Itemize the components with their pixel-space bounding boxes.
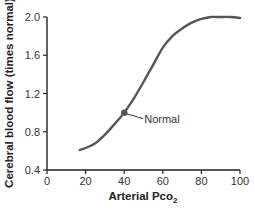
x-tick-label: 60 [157,175,169,187]
normal-point-marker [121,109,127,115]
annotations: Normal [121,109,180,124]
y-tick-label: 1.2 [25,88,40,100]
x-tick-label: 100 [231,175,249,187]
y-tick-label: 1.6 [25,49,40,61]
x-tick-label: 0 [44,175,50,187]
x-tick-label: 80 [195,175,207,187]
annotation-leader-line [126,114,143,119]
x-tick-label: 20 [79,175,91,187]
normal-annotation-label: Normal [144,113,179,125]
blood-flow-curve [80,17,240,150]
x-axis-title: Arterial Pco2 [108,190,178,205]
x-axis: 020406080100 [44,170,249,187]
y-axis-title: Cerebral blood flow (times normal) [3,0,15,188]
x-tick-label: 40 [118,175,130,187]
cerebral-blood-flow-chart: 0.40.81.21.62.0 020406080100 Normal Cere… [0,0,255,210]
y-axis: 0.40.81.21.62.0 [25,11,47,176]
y-tick-label: 2.0 [25,11,40,23]
y-tick-label: 0.8 [25,126,40,138]
y-tick-label: 0.4 [25,164,40,176]
